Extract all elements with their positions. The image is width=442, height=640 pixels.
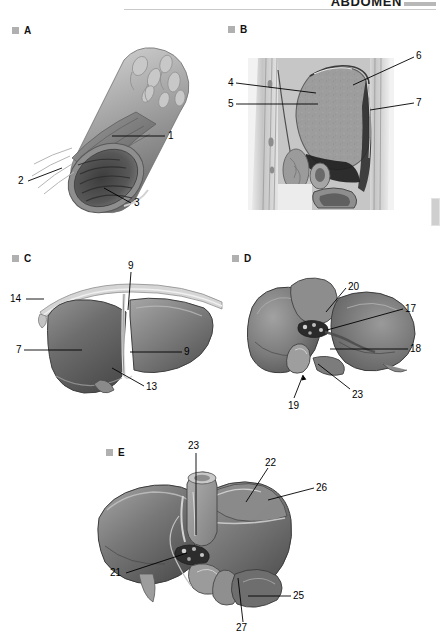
figure-b-sagittal-section xyxy=(248,58,394,210)
label-e-26: 26 xyxy=(316,483,327,493)
label-c-9-right: 9 xyxy=(184,347,190,357)
label-c-9-top: 9 xyxy=(128,261,134,271)
label-c-7: 7 xyxy=(16,345,22,355)
label-d-20: 20 xyxy=(348,282,359,292)
figure-a-intestine xyxy=(28,38,208,223)
label-b-6: 6 xyxy=(416,51,422,61)
label-c-13: 13 xyxy=(146,382,157,392)
label-b-7: 7 xyxy=(416,98,422,108)
panel-label-d: D xyxy=(232,253,251,264)
label-c-14: 14 xyxy=(10,294,21,304)
label-a-3: 3 xyxy=(134,198,140,208)
panel-letter-text-d: D xyxy=(244,253,251,264)
panel-bullet-icon xyxy=(12,27,19,34)
figure-c-liver-anterior xyxy=(36,272,226,397)
label-e-22: 22 xyxy=(265,458,276,468)
page-title: ABDOMEN xyxy=(331,0,402,9)
label-b-5: 5 xyxy=(228,99,234,109)
panel-bullet-icon xyxy=(12,255,19,262)
label-e-27: 27 xyxy=(236,623,247,633)
scrollbar-thumb[interactable] xyxy=(431,198,440,226)
panel-label-b: B xyxy=(228,24,247,35)
label-b-4: 4 xyxy=(228,78,234,88)
panel-letter-text-a: A xyxy=(24,25,31,36)
panel-label-c: C xyxy=(12,253,31,264)
figure-plate: ABDOMEN A B C D E xyxy=(0,0,442,640)
header-title-rule xyxy=(404,2,436,6)
label-d-19: 19 xyxy=(288,401,299,411)
panel-bullet-icon xyxy=(106,449,113,456)
figure-d-liver-visceral xyxy=(243,272,423,397)
label-e-21: 21 xyxy=(110,568,121,578)
panel-letter-text-e: E xyxy=(118,447,125,458)
label-a-2: 2 xyxy=(18,176,24,186)
header-rule xyxy=(124,9,436,10)
panel-bullet-icon xyxy=(232,255,239,262)
label-a-1: 1 xyxy=(168,131,174,141)
label-d-18: 18 xyxy=(410,344,421,354)
panel-label-e: E xyxy=(106,447,125,458)
panel-bullet-icon xyxy=(228,26,235,33)
panel-label-a: A xyxy=(12,25,31,36)
panel-letter-text-c: C xyxy=(24,253,31,264)
figure-e-liver-posterior xyxy=(95,462,325,622)
label-d-23: 23 xyxy=(352,390,363,400)
label-d-17: 17 xyxy=(405,304,416,314)
panel-letter-text-b: B xyxy=(240,24,247,35)
label-e-25: 25 xyxy=(293,591,304,601)
label-e-23: 23 xyxy=(188,441,199,451)
